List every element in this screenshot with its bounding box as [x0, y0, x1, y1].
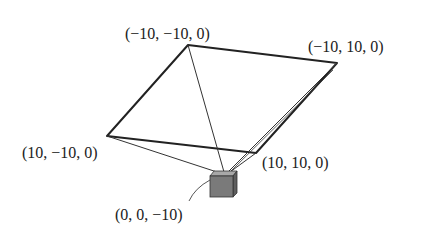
- camera-cube-icon: [210, 171, 237, 197]
- label-bottom-vertex: (10, 10, 0): [262, 154, 329, 172]
- ray-to-bottom: [230, 153, 256, 172]
- ray-to-top: [188, 45, 224, 172]
- label-left-vertex: (10, −10, 0): [22, 144, 98, 162]
- diagram-canvas: (−10, −10, 0) (−10, 10, 0) (10, −10, 0) …: [0, 0, 422, 235]
- camera-leader-line: [189, 180, 210, 201]
- label-camera: (0, 0, −10): [115, 206, 183, 224]
- label-top-vertex: (−10, −10, 0): [125, 25, 210, 43]
- plane-square: [107, 45, 337, 153]
- label-right-vertex: (−10, 10, 0): [308, 38, 384, 56]
